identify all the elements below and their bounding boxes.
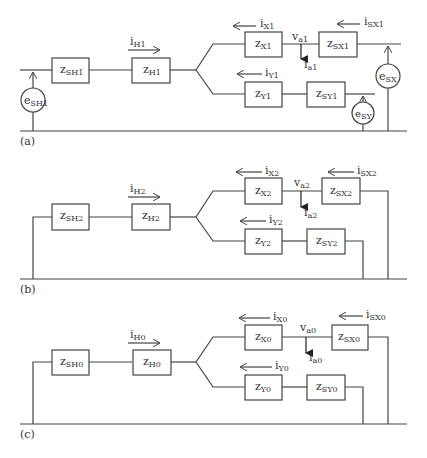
current-label-a: ia1 <box>304 58 317 72</box>
panel-label: (c) <box>20 428 35 441</box>
three-winding-sequence-network-diagram: eSH1 eSX eSY zSH1 zH1 zX1 zSX1 zY1 zSY1 … <box>0 0 427 458</box>
current-label-x: iX2 <box>265 164 279 178</box>
panel-label: (a) <box>20 135 35 148</box>
panel-c-zero-sequence: zSH0 zH0 zX0 zSX0 zY0 zSY0 iH0 iX0 iSX0 … <box>20 308 407 441</box>
wire-branch-x <box>196 191 245 217</box>
current-label-source-x: iSX0 <box>366 308 386 322</box>
voltage-label-a: va1 <box>291 30 308 44</box>
wire <box>345 387 363 424</box>
panel-a-positive-sequence: eSH1 eSX eSY zSH1 zH1 zX1 zSX1 zY1 zSY1 … <box>20 15 407 148</box>
wire <box>33 362 52 424</box>
current-label-x: iX1 <box>260 17 274 31</box>
voltage-label-a: va2 <box>293 176 310 190</box>
wire <box>33 217 52 279</box>
current-label-y: iY2 <box>269 213 283 227</box>
wire-branch-y <box>196 362 245 387</box>
wire <box>368 337 388 424</box>
voltage-label-a: va0 <box>299 321 316 335</box>
panel-b-negative-sequence: zSH2 zH2 zX2 zSX2 zY2 zSY2 iH2 iX2 iSX2 … <box>20 164 407 296</box>
current-label-y: iY0 <box>275 359 289 373</box>
current-label-source-x: iSX1 <box>364 15 384 29</box>
current-label-h: iH1 <box>130 35 146 49</box>
current-label-source-x: iSX2 <box>357 164 377 178</box>
wire-branch-y <box>196 217 245 241</box>
wire-branch-x <box>196 337 245 362</box>
current-label-h: iH0 <box>130 328 146 342</box>
wire <box>345 241 363 279</box>
current-label-x: iX0 <box>273 310 287 324</box>
current-label-a: ia0 <box>309 351 322 365</box>
current-label-y: iY1 <box>265 66 279 80</box>
panel-label: (b) <box>20 283 36 296</box>
wire-branch-x <box>196 44 245 70</box>
current-label-a: ia2 <box>304 206 317 220</box>
current-label-h: iH2 <box>130 182 146 196</box>
wire <box>360 191 388 279</box>
